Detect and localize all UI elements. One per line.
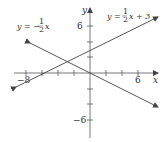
svg-text:2: 2 (123, 15, 128, 24)
x-tick-label-6: 6 (135, 75, 141, 85)
y-tick-label-6: 6 (77, 21, 83, 31)
chart-canvas: −8 6 6 −6 x y y = − 1 2 x y = 1 2 x + 3 (0, 0, 162, 142)
svg-text:x + 3: x + 3 (129, 12, 150, 21)
svg-text:2: 2 (39, 25, 44, 34)
y-tick-label-neg6: −6 (73, 115, 87, 125)
x-axis-label: x (153, 75, 158, 85)
svg-text:y =: y = (106, 12, 121, 21)
equation-label-1: y = − 1 2 x (16, 17, 50, 34)
svg-text:y = −: y = − (16, 22, 40, 31)
equation-label-2: y = 1 2 x + 3 (106, 7, 150, 24)
svg-text:x: x (45, 22, 50, 31)
y-axis-label: y (81, 5, 88, 15)
